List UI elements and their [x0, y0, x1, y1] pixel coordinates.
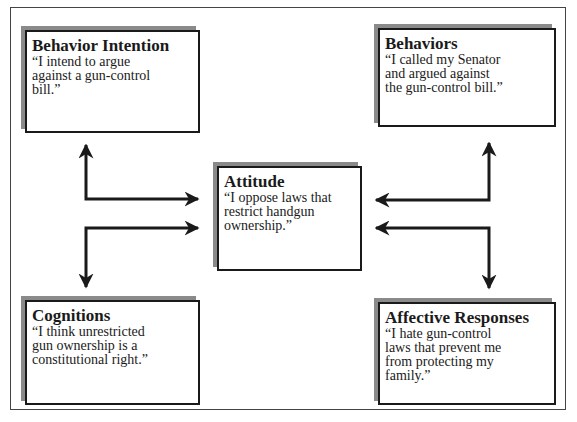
arrow-affective-attitude — [376, 228, 489, 288]
arrow-behaviors-attitude — [376, 143, 489, 200]
node-affective-responses: Affective Responses “I hate gun-control … — [378, 302, 556, 405]
arrow-behavior-intention-attitude — [86, 145, 198, 199]
node-quote: “I think unrestricted gun ownership is a… — [32, 325, 198, 367]
node-title: Attitude — [224, 172, 360, 191]
arrow-cognitions-attitude — [86, 228, 198, 287]
node-cognitions: Cognitions “I think unrestricted gun own… — [25, 300, 200, 405]
node-quote: “I hate gun-control laws that prevent me… — [385, 327, 554, 383]
node-quote: “I intend to argue against a gun-control… — [32, 55, 198, 97]
node-behaviors: Behaviors “I called my Senator and argue… — [378, 28, 556, 127]
node-title: Behavior Intention — [32, 36, 198, 55]
node-behavior-intention: Behavior Intention “I intend to argue ag… — [25, 30, 200, 133]
node-quote: “I oppose laws that restrict handgun own… — [224, 191, 360, 233]
node-title: Affective Responses — [385, 308, 554, 327]
node-quote: “I called my Senator and argued against … — [385, 53, 554, 95]
node-title: Behaviors — [385, 34, 554, 53]
node-title: Cognitions — [32, 306, 198, 325]
node-attitude: Attitude “I oppose laws that restrict ha… — [217, 166, 362, 271]
